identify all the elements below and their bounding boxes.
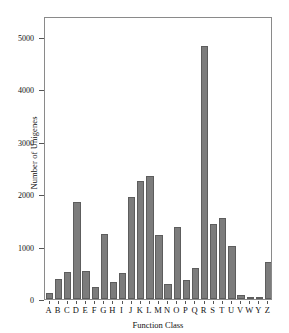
x-axis-ticks: ABCDEFGHIJKLMNOPQRSTUVWYZ <box>44 301 272 321</box>
y-tick-label: 5000 <box>18 33 34 42</box>
x-tick-mark <box>122 301 123 304</box>
bar-U <box>228 246 235 299</box>
x-tick-mark <box>112 301 113 304</box>
x-tick-mark <box>185 301 186 304</box>
x-tick-mark <box>140 301 141 304</box>
bar-V <box>237 295 244 299</box>
bar-S <box>210 224 217 299</box>
x-tick-label-Z: Z <box>265 305 270 315</box>
plot-area <box>44 17 272 300</box>
x-tick-mark <box>213 301 214 304</box>
x-tick-mark <box>258 301 259 304</box>
x-tick-label-B: B <box>55 305 61 315</box>
x-tick-label-E: E <box>82 305 87 315</box>
x-tick-mark <box>194 301 195 304</box>
x-tick-label-N: N <box>164 305 170 315</box>
bar-M <box>155 235 162 299</box>
y-tick-label: 0 <box>30 296 34 305</box>
bar-P <box>183 280 190 299</box>
x-tick-label-K: K <box>137 305 143 315</box>
bar-A <box>46 293 53 299</box>
x-tick-label-H: H <box>109 305 115 315</box>
x-tick-mark <box>103 301 104 304</box>
x-tick-mark <box>204 301 205 304</box>
bar-K <box>137 181 144 299</box>
x-tick-mark <box>231 301 232 304</box>
x-tick-label-P: P <box>183 305 188 315</box>
bar-O <box>174 227 181 299</box>
x-tick-label-G: G <box>100 305 106 315</box>
bar-B <box>55 279 62 299</box>
x-tick-mark <box>176 301 177 304</box>
bar-F <box>92 287 99 299</box>
x-tick-mark <box>76 301 77 304</box>
x-tick-label-C: C <box>64 305 70 315</box>
bar-J <box>128 197 135 299</box>
bar-H <box>110 282 117 299</box>
x-tick-label-V: V <box>237 305 243 315</box>
x-tick-mark <box>267 301 268 304</box>
bar-R <box>201 46 208 299</box>
bar-I <box>119 273 126 299</box>
y-tick-label: 4000 <box>18 86 34 95</box>
bar-W <box>247 297 254 299</box>
x-tick-label-A: A <box>45 305 51 315</box>
x-tick-label-M: M <box>154 305 162 315</box>
bar-T <box>219 218 226 299</box>
bar-G <box>101 234 108 299</box>
bar-E <box>82 271 89 299</box>
x-tick-mark <box>222 301 223 304</box>
y-tick-label: 1000 <box>18 243 34 252</box>
x-tick-label-W: W <box>245 305 253 315</box>
x-tick-label-I: I <box>120 305 123 315</box>
bar-D <box>73 202 80 299</box>
bar-Z <box>265 262 272 299</box>
x-tick-label-D: D <box>73 305 79 315</box>
bar-L <box>146 176 153 299</box>
x-tick-mark <box>249 301 250 304</box>
x-tick-label-F: F <box>92 305 97 315</box>
x-tick-label-O: O <box>173 305 179 315</box>
x-tick-label-S: S <box>210 305 215 315</box>
x-tick-mark <box>240 301 241 304</box>
x-tick-mark <box>131 301 132 304</box>
bar-Q <box>192 268 199 299</box>
x-tick-mark <box>85 301 86 304</box>
x-tick-mark <box>167 301 168 304</box>
x-tick-label-Y: Y <box>255 305 261 315</box>
x-tick-mark <box>149 301 150 304</box>
bar-C <box>64 272 71 299</box>
x-tick-label-R: R <box>201 305 207 315</box>
bar-Y <box>256 297 263 299</box>
y-tick-label: 3000 <box>18 138 34 147</box>
x-tick-mark <box>58 301 59 304</box>
x-tick-mark <box>49 301 50 304</box>
y-axis-ticks: 010002000300040005000 <box>0 0 44 333</box>
y-tick-label: 2000 <box>18 191 34 200</box>
x-tick-label-L: L <box>146 305 151 315</box>
x-tick-label-Q: Q <box>191 305 197 315</box>
x-axis-title: Function Class <box>44 320 272 330</box>
x-tick-label-U: U <box>228 305 234 315</box>
x-tick-label-T: T <box>219 305 224 315</box>
x-tick-mark <box>67 301 68 304</box>
x-tick-label-J: J <box>129 305 132 315</box>
bar-chart-figure: Number of Unigenes 010002000300040005000… <box>0 0 289 333</box>
x-tick-mark <box>158 301 159 304</box>
bar-N <box>164 284 171 299</box>
x-tick-mark <box>94 301 95 304</box>
bar-series <box>45 18 271 299</box>
